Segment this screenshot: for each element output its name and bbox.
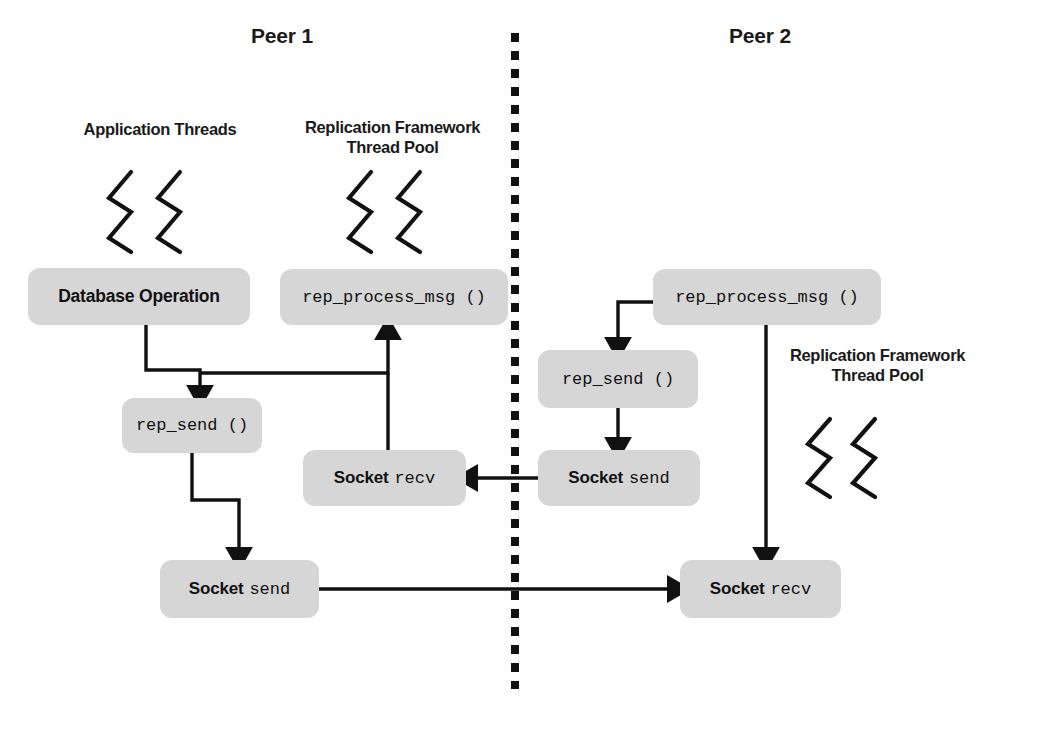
peer1-thread-pool-zigzag-group [349, 172, 420, 252]
node-peer2-socket-send[interactable]: Socket send [538, 450, 700, 506]
connectors-and-glyphs-layer [0, 0, 1043, 733]
zigzag-thread-icon [808, 419, 830, 497]
zigzag-thread-icon [109, 172, 131, 252]
zigzag-thread-icon [853, 419, 875, 497]
node-peer1-rep-process-msg-label: rep_process_msg () [302, 288, 486, 307]
node-peer2-socket-send-word: Socket [568, 468, 623, 488]
node-peer2-rep-process-msg[interactable]: rep_process_msg () [653, 269, 881, 325]
flow-peer2-rep-process-msg-to-rep-send [618, 302, 653, 341]
node-peer1-socket-recv[interactable]: Socket recv [303, 450, 466, 506]
flow-socket-recv-to-rep-process-msg [200, 336, 388, 373]
zigzag-thread-icon [398, 172, 420, 252]
node-peer1-socket-recv-call: recv [394, 469, 435, 488]
node-peer2-rep-process-msg-label: rep_process_msg () [675, 288, 859, 307]
node-peer1-socket-send-word: Socket [189, 579, 244, 599]
node-peer1-rep-process-msg[interactable]: rep_process_msg () [280, 269, 508, 325]
peer2-thread-pool-zigzag-group [808, 419, 875, 497]
flow-rep-send-to-socket-send [192, 452, 239, 551]
node-peer1-socket-recv-word: Socket [334, 468, 389, 488]
zigzag-thread-icon [158, 172, 180, 252]
node-peer2-socket-recv-call: recv [770, 580, 811, 599]
node-peer2-socket-send-call: send [629, 469, 670, 488]
node-peer2-socket-recv[interactable]: Socket recv [680, 560, 841, 618]
node-peer1-socket-send-call: send [249, 580, 290, 599]
flow-db-operation-to-rep-send [146, 325, 200, 389]
node-peer2-rep-send-label: rep_send () [562, 370, 674, 389]
node-peer2-socket-recv-word: Socket [710, 579, 765, 599]
zigzag-thread-icon [349, 172, 371, 252]
application-threads-zigzag-group [109, 172, 180, 252]
node-peer2-rep-send[interactable]: rep_send () [538, 350, 698, 408]
node-database-operation[interactable]: Database Operation [28, 268, 250, 325]
node-peer1-rep-send-label: rep_send () [136, 416, 248, 435]
diagram-canvas: Peer 1 Peer 2 Application Threads Replic… [0, 0, 1043, 733]
node-peer1-socket-send[interactable]: Socket send [160, 560, 319, 618]
node-peer1-rep-send[interactable]: rep_send () [122, 398, 262, 453]
